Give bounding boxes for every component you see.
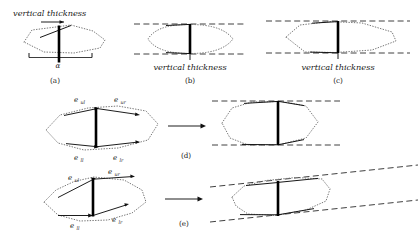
panel-c-vertical-thickness-label: vertical thickness [301, 62, 374, 72]
svg-text:e: e [113, 154, 117, 162]
panel-d-edge-ll [66, 144, 99, 149]
panel-e-caption: (e) [179, 219, 189, 228]
panel-d-edge-ur-label: e ur [114, 96, 127, 105]
panel-b-vertical-thickness-label: vertical thickness [153, 62, 226, 72]
svg-text:lr: lr [118, 220, 123, 225]
svg-text:e: e [112, 216, 116, 224]
panel-c-polygon-outline [286, 22, 396, 53]
panel-c-caption: (c) [333, 76, 343, 85]
svg-text:lr: lr [119, 158, 124, 163]
panel-e-source-polygon: e ul e ur e ll e lr [44, 168, 146, 231]
panel-d-result-outline [222, 102, 318, 146]
panel-e: e ul e ur e ll e lr [44, 165, 418, 231]
panel-d-edge-ur [96, 108, 140, 116]
panel-c-bottom-edge [310, 52, 338, 53]
panel-d-caption: (d) [181, 151, 191, 160]
panel-e-edge-ll [58, 214, 93, 218]
panel-d-edge-lr-label: e lr [113, 154, 124, 163]
panel-e-result-polygon [210, 165, 418, 222]
panel-d-result-edge-ul [244, 101, 278, 103]
figure-canvas: vertical thickness α (a) [0, 0, 418, 246]
panel-b: vertical thickness (b) [134, 24, 245, 85]
panel-d-result-edge-lr [278, 140, 304, 145]
panel-e-upper-support-line [210, 165, 418, 187]
panel-a-caption: (a) [50, 76, 60, 85]
panel-d-result-polygon [212, 101, 340, 145]
panel-a-polygon-outline [24, 25, 105, 53]
panel-a: vertical thickness α (a) [13, 8, 105, 85]
panel-e-edge-ul-label: e ul [68, 174, 80, 183]
panel-e-edge-ll-label: e ll [70, 222, 80, 231]
svg-text:e: e [70, 222, 74, 230]
panel-e-result-outline [232, 178, 330, 216]
panel-e-transform-arrow [165, 197, 203, 202]
svg-text:e: e [74, 96, 78, 104]
svg-text:ur: ur [120, 100, 126, 105]
svg-text:ur: ur [114, 172, 120, 177]
panel-b-top-edge [166, 24, 190, 25]
svg-text:ll: ll [80, 158, 84, 163]
panel-d-edge-ul [64, 107, 99, 115]
svg-text:ll: ll [76, 226, 80, 231]
panel-d-transform-arrow [168, 124, 206, 129]
svg-text:e: e [108, 168, 112, 176]
panel-b-bottom-edge [166, 53, 190, 54]
panel-d-source-polygon: e ul e ur e ll e lr [46, 96, 158, 163]
panel-e-lower-support-line [210, 200, 418, 222]
panel-e-edge-ur-label: e ur [108, 168, 121, 177]
svg-text:e: e [74, 154, 78, 162]
svg-text:e: e [114, 96, 118, 104]
svg-text:ul: ul [80, 100, 85, 105]
panel-d-polygon-outline [46, 106, 158, 150]
panel-a-alpha-label: α [56, 62, 61, 70]
svg-text:ul: ul [74, 178, 79, 183]
panel-d: e ul e ur e ll e lr [46, 96, 340, 163]
panel-e-edge-lr [93, 203, 129, 215]
panel-a-thickness-arrow [41, 20, 64, 24]
panel-b-caption: (b) [185, 76, 195, 85]
panel-d-result-edge-ur [278, 101, 304, 105]
panel-c: vertical thickness (c) [266, 21, 410, 85]
svg-text:e: e [68, 174, 72, 182]
panel-d-edge-ll-label: e ll [74, 154, 84, 163]
panel-d-edge-ul-label: e ul [74, 96, 86, 105]
panel-a-vertical-thickness-label: vertical thickness [13, 8, 86, 18]
